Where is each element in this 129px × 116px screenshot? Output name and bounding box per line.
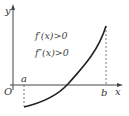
diagram-canvas: y x O a b f′(x)>0 f″(x)>0: [0, 0, 129, 116]
origin-label: O: [4, 86, 12, 97]
condition-first-derivative: f′(x)>0: [34, 30, 67, 41]
y-axis-arrow-icon: [11, 4, 15, 10]
x-axis-label: x: [115, 86, 121, 97]
point-a-label: a: [21, 73, 27, 84]
y-axis-label: y: [4, 5, 11, 16]
point-b-label: b: [101, 87, 107, 98]
condition-second-derivative: f″(x)>0: [34, 47, 69, 58]
